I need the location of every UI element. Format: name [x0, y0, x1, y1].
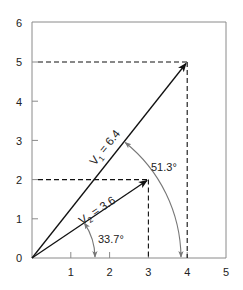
y-tick-label: 2 [16, 174, 22, 186]
y-tick-label: 5 [16, 56, 22, 68]
x-axis-ticks [71, 252, 187, 258]
x-axis-labels: 1 2 3 4 5 [68, 266, 229, 278]
v2-label-value: = 3.6 [87, 194, 118, 220]
plot-frame [32, 22, 226, 258]
angle-arc-v1 [125, 143, 181, 258]
x-tick-label: 3 [145, 266, 151, 278]
x-tick-label: 5 [223, 266, 229, 278]
x-tick-label: 2 [107, 266, 113, 278]
y-tick-label: 1 [16, 213, 22, 225]
y-axis-ticks [32, 62, 38, 219]
x-tick-label: 1 [68, 266, 74, 278]
angle-label-v1: 51.3° [151, 161, 177, 173]
v1-label-value: = 6.4 [95, 127, 123, 158]
y-tick-label: 4 [16, 96, 22, 108]
projection-lines [38, 62, 187, 258]
y-tick-label: 6 [16, 17, 22, 29]
x-tick-label: 4 [184, 266, 190, 278]
y-tick-label: 0 [16, 252, 22, 264]
angle-label-v2: 33.7° [98, 233, 124, 245]
angle-arc-v2 [84, 223, 95, 257]
svg-text:V2 = 3.6: V2 = 3.6 [76, 194, 119, 229]
vector-v2-label: V2 = 3.6 [76, 194, 119, 229]
y-tick-label: 3 [16, 135, 22, 147]
y-axis-labels: 0 1 2 3 4 5 6 [16, 17, 22, 264]
vector-diagram: 0 1 2 3 4 5 6 1 2 3 4 5 V1 = 6.4 V2 = 3.… [0, 0, 243, 290]
